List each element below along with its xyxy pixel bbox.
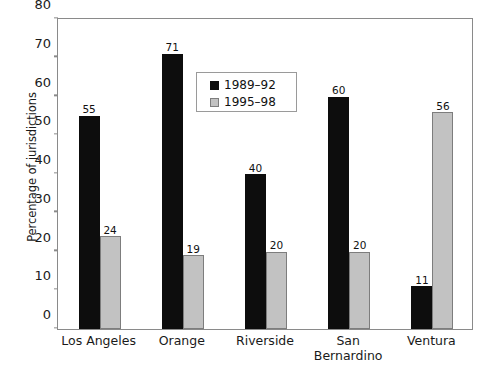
bar-group: 4020: [245, 19, 287, 329]
chart-legend: 1989–921995–98: [196, 72, 297, 112]
bar-group: 7119: [162, 19, 204, 329]
bars-layer: 55247119402060201156: [58, 19, 472, 329]
x-tick-label: San Bernardino: [307, 334, 390, 363]
y-tick-label: 20: [34, 229, 58, 244]
bar-chart: Percentage of jurisdictions 010203040506…: [0, 0, 488, 375]
bar: 20: [349, 252, 370, 330]
bar: 40: [245, 174, 266, 329]
legend-label: 1995–98: [224, 95, 276, 109]
x-tick-label: Ventura: [390, 334, 473, 349]
bar-value-label: 71: [166, 42, 179, 53]
y-tick-label: 40: [34, 152, 58, 167]
legend-swatch-icon: [210, 98, 219, 107]
bar: 71: [162, 54, 183, 329]
x-tick-label: Riverside: [223, 334, 306, 349]
bar-value-label: 56: [436, 101, 449, 112]
y-tick-label: 30: [34, 190, 58, 205]
y-tick-label: 80: [34, 0, 58, 12]
bar-value-label: 20: [270, 240, 283, 251]
x-tick-label: Orange: [140, 334, 223, 349]
bar: 60: [328, 97, 349, 330]
legend-label: 1989–92: [224, 78, 276, 92]
legend-item: 1995–98: [210, 94, 296, 110]
bar-value-label: 20: [353, 240, 366, 251]
y-tick-label: 50: [34, 113, 58, 128]
x-tick-label: Los Angeles: [57, 334, 140, 349]
bar: 24: [100, 236, 121, 329]
legend-item: 1989–92: [210, 77, 296, 93]
bar: 11: [411, 286, 432, 329]
bar-value-label: 40: [249, 163, 262, 174]
bar-group: 5524: [79, 19, 121, 329]
bar-value-label: 60: [332, 85, 345, 96]
bar-group: 6020: [328, 19, 370, 329]
bar: 20: [266, 252, 287, 330]
bar-value-label: 24: [103, 225, 116, 236]
y-tick-label: 0: [43, 307, 58, 322]
y-tick-label: 70: [34, 35, 58, 50]
y-tick-label: 60: [34, 74, 58, 89]
bar-value-label: 19: [187, 244, 200, 255]
bar: 55: [79, 116, 100, 329]
bar: 56: [432, 112, 453, 329]
legend-swatch-icon: [210, 81, 219, 90]
plot-area: 01020304050607080 55247119402060201156: [57, 18, 473, 330]
bar-value-label: 11: [415, 275, 428, 286]
bar-group: 1156: [411, 19, 453, 329]
bar: 19: [183, 255, 204, 329]
y-tick-label: 10: [34, 268, 58, 283]
bar-value-label: 55: [82, 104, 95, 115]
